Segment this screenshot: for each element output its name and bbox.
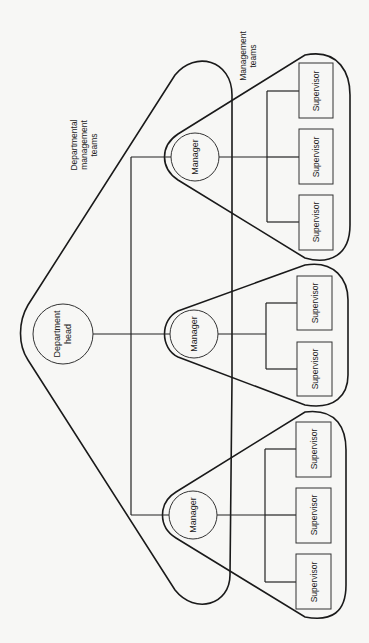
manager-node-1: Manager	[171, 133, 219, 181]
manager-node-3: Manager	[169, 491, 217, 539]
label-line: teams	[248, 44, 258, 67]
supervisor-box: Supervisor	[297, 342, 332, 396]
supervisor-label: Supervisor	[311, 71, 321, 112]
label-line: management	[79, 120, 89, 170]
supervisor-label: Supervisor	[311, 137, 321, 178]
departmental-teams-label: Departmental management teams	[69, 119, 99, 170]
label-line: Management	[238, 31, 248, 81]
manager-node-2: Manager	[170, 310, 218, 358]
supervisor-box: Supervisor	[297, 276, 332, 330]
supervisor-box: Supervisor	[296, 488, 331, 543]
supervisor-box: Supervisor	[296, 422, 331, 477]
supervisor-label: Supervisor	[310, 349, 320, 390]
label-line: teams	[89, 133, 99, 156]
department-head-node: Department head	[33, 304, 93, 364]
supervisor-box: Supervisor	[299, 63, 333, 118]
manager-label: Manager	[188, 497, 198, 533]
supervisor-label: Supervisor	[309, 562, 319, 603]
manager-label: Manager	[190, 139, 200, 175]
department-head-line2: head	[63, 324, 73, 344]
management-teams-label: Management teams	[238, 31, 258, 81]
supervisor-box: Supervisor	[299, 195, 333, 250]
org-chart-diagram: Department head Manager Manager Manager …	[0, 0, 369, 643]
supervisor-box: Supervisor	[299, 129, 333, 184]
supervisor-label: Supervisor	[310, 283, 320, 324]
manager-label: Manager	[189, 316, 199, 352]
supervisor-label: Supervisor	[309, 429, 319, 470]
supervisor-label: Supervisor	[309, 495, 319, 536]
department-head-line1: Department	[52, 310, 62, 358]
supervisor-label: Supervisor	[311, 202, 321, 243]
label-line: Departmental	[69, 119, 79, 170]
supervisor-box: Supervisor	[296, 554, 331, 609]
